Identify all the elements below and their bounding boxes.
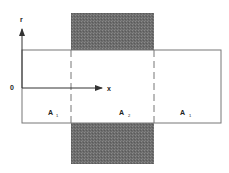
- svg-text:2: 2: [128, 113, 131, 118]
- svg-text:A: A: [180, 109, 185, 116]
- svg-text:1: 1: [56, 113, 59, 118]
- bottom-shaded-block: [71, 123, 154, 164]
- svg-text:A: A: [48, 109, 53, 116]
- region-label-center: A 2: [119, 109, 131, 118]
- diagram-canvas: r 0 x A 1 A 2 A 1: [0, 0, 229, 173]
- origin-label: 0: [10, 84, 14, 91]
- x-axis-label: x: [107, 85, 111, 92]
- region-label-right: A 1: [180, 109, 192, 118]
- region-label-left: A 1: [48, 109, 59, 118]
- r-axis-label: r: [20, 16, 23, 23]
- svg-text:A: A: [119, 109, 124, 116]
- svg-text:1: 1: [189, 113, 192, 118]
- top-shaded-block: [71, 13, 154, 50]
